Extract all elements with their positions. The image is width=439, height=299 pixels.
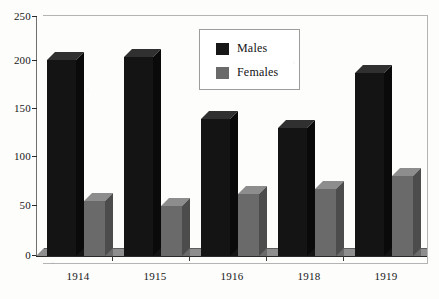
bar-side (336, 181, 344, 256)
females-swatch-icon (216, 67, 229, 79)
bar-side (230, 111, 238, 256)
chart-legend: Males Females (199, 29, 300, 90)
y-tick-mark-50 (32, 205, 37, 206)
bar-males-1915 (124, 57, 161, 256)
bar-side (153, 49, 161, 256)
bar-males-1914 (47, 60, 84, 256)
y-tick-label-150: 150 (5, 102, 31, 114)
y-tick-label-50: 50 (5, 199, 31, 211)
x-tick-label-1916: 1916 (207, 270, 257, 282)
x-tick-label-1919: 1919 (361, 270, 411, 282)
bar-females-1919 (392, 176, 421, 256)
bar-males-1918 (278, 128, 315, 256)
bar-females-1918 (315, 189, 344, 256)
plot-frame-right (427, 15, 428, 264)
y-tick-label-250: 250 (5, 10, 31, 22)
bar-females-1916 (238, 194, 267, 256)
y-axis-line (36, 16, 37, 256)
x-tick-label-1914: 1914 (53, 270, 103, 282)
x-axis-separator-2 (189, 256, 190, 261)
legend-label-females: Females (237, 65, 278, 80)
bar-side (384, 65, 392, 256)
y-tick-mark-200 (32, 60, 37, 61)
bar-side (413, 168, 421, 256)
x-tick-label-1918: 1918 (284, 270, 334, 282)
y-tick-label-100: 100 (5, 150, 31, 162)
x-axis-separator-1 (112, 256, 113, 261)
y-tick-label-200: 200 (5, 54, 31, 66)
bar-males-1916 (201, 119, 238, 256)
y-tick-mark-150 (32, 108, 37, 109)
bar-males-1919 (355, 73, 392, 256)
bar-side (182, 198, 190, 256)
x-axis-separator-3 (266, 256, 267, 261)
legend-label-males: Males (237, 41, 267, 56)
males-swatch-icon (216, 43, 229, 55)
bar-side (259, 186, 267, 256)
bar-chart: 250 200 150 100 50 0 (0, 0, 439, 299)
y-tick-mark-250 (32, 16, 37, 17)
x-axis-separator-4 (343, 256, 344, 261)
bar-side (76, 52, 84, 256)
bar-side (105, 193, 113, 256)
y-tick-mark-100 (32, 156, 37, 157)
y-tick-label-0: 0 (5, 249, 31, 261)
bar-side (307, 120, 315, 256)
bar-females-1914 (84, 201, 113, 256)
x-axis-line-front (36, 256, 427, 257)
legend-entry-males: Males (216, 41, 267, 56)
plot-frame-bottom (43, 263, 428, 264)
x-tick-label-1915: 1915 (130, 270, 180, 282)
plot-frame-top (43, 15, 428, 16)
legend-entry-females: Females (216, 65, 278, 80)
bar-females-1915 (161, 206, 190, 256)
